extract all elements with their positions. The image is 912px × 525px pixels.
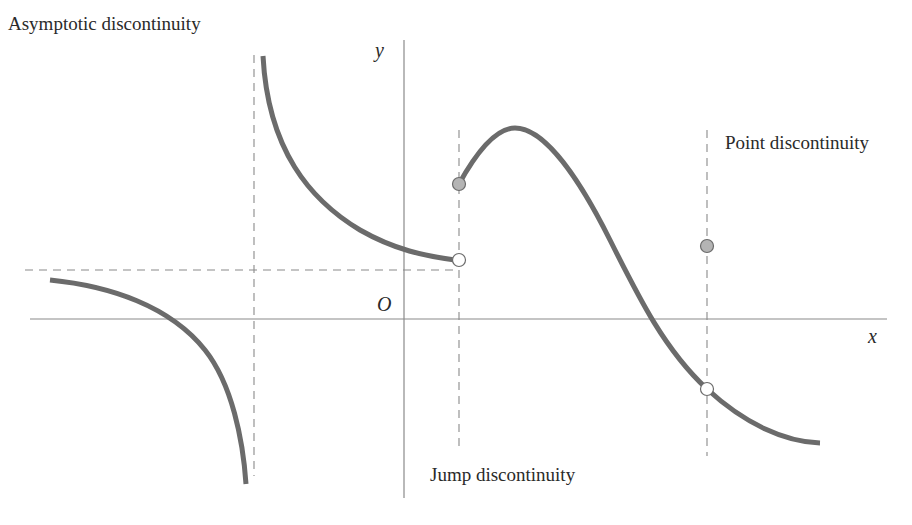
point-discontinuity-label: Point discontinuity bbox=[725, 133, 869, 152]
origin-label: O bbox=[377, 294, 391, 314]
jump-closed-point bbox=[453, 178, 466, 191]
jump-discontinuity-label: Jump discontinuity bbox=[430, 465, 575, 484]
discontinuity-diagram bbox=[0, 0, 912, 525]
middle-branch-curve bbox=[263, 56, 455, 260]
y-axis-label: y bbox=[375, 40, 384, 60]
left-branch-curve bbox=[50, 280, 246, 484]
jump-open-point bbox=[453, 254, 466, 267]
removable-closed-point bbox=[701, 240, 714, 253]
asymptotic-discontinuity-label: Asymptotic discontinuity bbox=[8, 14, 201, 33]
right-branch-curve bbox=[459, 128, 820, 443]
x-axis-label: x bbox=[868, 326, 877, 346]
removable-open-point bbox=[701, 383, 714, 396]
